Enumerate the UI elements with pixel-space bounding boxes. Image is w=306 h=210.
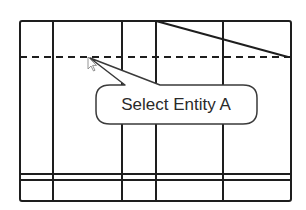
callout-label: Select Entity A bbox=[96, 88, 256, 122]
